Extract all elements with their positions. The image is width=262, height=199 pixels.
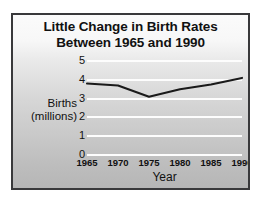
chart-title: Little Change in Birth Rates Between 196… <box>13 19 248 51</box>
x-tick-label: 1980 <box>169 157 190 168</box>
y-tick-label: 1 <box>69 130 85 141</box>
x-tick-label: 1970 <box>107 157 128 168</box>
x-tick-label: 1990 <box>231 157 250 168</box>
y-tick-label: 5 <box>69 55 85 66</box>
x-axis-title: Year <box>87 170 242 184</box>
y-tick-label: 3 <box>69 93 85 104</box>
x-tick-label: 1975 <box>138 157 159 168</box>
chart-title-line-1: Little Change in Birth Rates <box>13 19 248 35</box>
y-axis-tick-labels: 012345 <box>63 61 85 155</box>
y-tick-label: 2 <box>69 111 85 122</box>
series-polyline <box>87 78 242 97</box>
x-tick-label: 1985 <box>200 157 221 168</box>
plot-area <box>87 61 242 155</box>
y-tick-label: 4 <box>69 74 85 85</box>
x-axis-tick-labels: 196519701975198019851990 <box>87 157 247 171</box>
x-tick-label: 1965 <box>76 157 97 168</box>
chart-title-line-2: Between 1965 and 1990 <box>13 35 248 51</box>
chart-figure: Little Change in Birth Rates Between 196… <box>11 13 250 190</box>
birth-rate-line-series <box>87 61 242 155</box>
